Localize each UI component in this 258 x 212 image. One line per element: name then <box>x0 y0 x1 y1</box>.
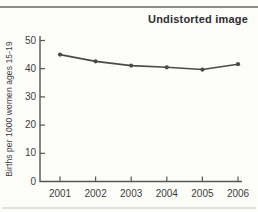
data-point <box>200 67 204 71</box>
y-tick-label: 50 <box>12 36 36 46</box>
x-tick-label: 2003 <box>116 189 146 199</box>
data-point <box>236 62 240 66</box>
x-tick-label: 2004 <box>152 189 182 199</box>
axes <box>40 36 242 182</box>
x-tick-label: 2005 <box>187 189 217 199</box>
data-point <box>94 59 98 63</box>
y-tick-label: 0 <box>12 177 36 187</box>
data-point <box>129 63 133 67</box>
line-chart <box>0 0 258 212</box>
x-tick-label: 2006 <box>223 189 253 199</box>
bottom-rule <box>2 207 256 209</box>
data-point <box>165 65 169 69</box>
data-point <box>58 53 62 57</box>
y-tick-label: 30 <box>12 92 36 102</box>
chart-panel: Undistorted image Births per 1000 women … <box>0 0 258 212</box>
data-line <box>60 55 238 70</box>
x-tick-label: 2002 <box>81 189 111 199</box>
y-tick-label: 40 <box>12 64 36 74</box>
y-tick-label: 10 <box>12 148 36 158</box>
y-tick-label: 20 <box>12 120 36 130</box>
x-tick-label: 2001 <box>45 189 75 199</box>
